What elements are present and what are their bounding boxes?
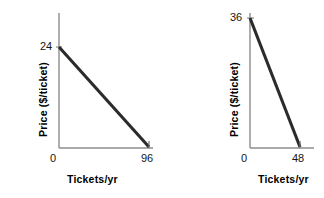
left-x-axis-title: Tickets/yr xyxy=(67,173,118,185)
right-y-tick-label-36: 36 xyxy=(230,12,242,23)
left-x-tick-label-96: 96 xyxy=(141,153,153,164)
left-y-tick-label-24: 24 xyxy=(40,41,52,52)
demand-curves-figure: 24 0 96 Price ($/ticket) Tickets/yr 36 0… xyxy=(0,0,324,198)
right-chart-plot xyxy=(162,0,324,198)
left-y-axis-title: Price ($/ticket) xyxy=(37,62,49,137)
chart-panel-left: 24 0 96 Price ($/ticket) Tickets/yr xyxy=(0,0,162,198)
left-chart-plot xyxy=(0,0,162,198)
left-x-tick-label-0: 0 xyxy=(50,153,56,164)
right-x-axis-title: Tickets/yr xyxy=(258,173,309,185)
right-x-tick-label-48: 48 xyxy=(292,153,304,164)
right-y-axis-title: Price ($/ticket) xyxy=(228,62,240,137)
left-demand-curve xyxy=(59,47,149,147)
right-demand-curve xyxy=(250,18,300,147)
chart-panel-right: 36 0 48 Price ($/ticket) Tickets/yr xyxy=(162,0,324,198)
right-x-tick-label-0: 0 xyxy=(241,153,247,164)
